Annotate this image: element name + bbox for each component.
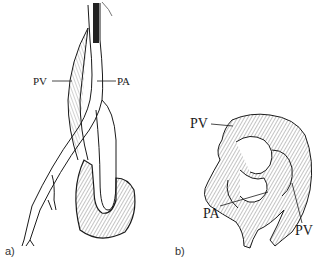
panel-a-drawing [22, 2, 135, 246]
annotation-pv-b-right: PV [295, 224, 313, 238]
annotation-pv-a: PV [33, 76, 47, 87]
panel-label-b: b) [175, 246, 185, 257]
annotation-pv-b-top: PV [190, 117, 208, 131]
illustration [0, 0, 323, 266]
annotation-pa-b: PA [203, 207, 220, 221]
panel-label-a: a) [5, 246, 15, 257]
annotation-pa-a: PA [117, 76, 130, 87]
